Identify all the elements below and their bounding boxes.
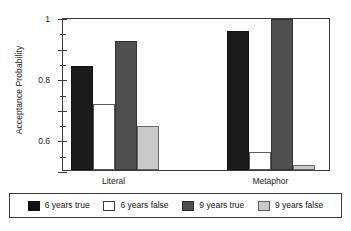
- bar-chart-figure: Acceptance Probability 00.20.40.60.81 Li…: [0, 0, 351, 231]
- legend-swatch-icon: [182, 201, 194, 211]
- y-tick-major: 0.8: [58, 50, 67, 51]
- y-tick-major: 1: [58, 19, 67, 20]
- bar-literal-6-years-false: [93, 104, 115, 170]
- y-tick-major: 0: [58, 172, 67, 173]
- legend-entry: 9 years true: [182, 201, 244, 211]
- legend-swatch-icon: [28, 201, 40, 211]
- plot-area: 00.20.40.60.81: [62, 18, 330, 171]
- legend-label: 6 years true: [45, 201, 90, 210]
- y-tick-label: 1: [45, 15, 50, 24]
- legend-label: 9 years true: [199, 201, 244, 210]
- y-tick-label: 0.6: [38, 137, 50, 146]
- y-axis-label: Acceptance Probability: [14, 20, 24, 160]
- legend-swatch-icon: [258, 201, 270, 211]
- legend-label: 6 years false: [120, 201, 168, 210]
- x-axis-label-metaphor: Metaphor: [252, 176, 288, 186]
- legend-label: 9 years false: [275, 201, 323, 210]
- legend-entry: 9 years false: [258, 201, 323, 211]
- chart-legend: 6 years true6 years false9 years true9 y…: [9, 193, 342, 218]
- y-tick-minor: [60, 96, 66, 97]
- bar-metaphor-6-years-false: [249, 152, 271, 170]
- legend-entry: 6 years false: [103, 201, 168, 211]
- bar-metaphor-6-years-true: [227, 31, 249, 170]
- bar-literal-6-years-true: [71, 66, 93, 170]
- y-tick-major: 0.4: [58, 111, 67, 112]
- y-tick-label: 0.8: [38, 76, 50, 85]
- chart-panel: Acceptance Probability 00.20.40.60.81 Li…: [0, 0, 351, 188]
- y-tick-minor: [60, 157, 66, 158]
- y-tick-minor: [60, 34, 66, 35]
- legend-entry: 6 years true: [28, 201, 90, 211]
- bar-metaphor-9-years-true: [271, 19, 293, 170]
- y-tick-minor: [60, 65, 66, 66]
- x-axis-label-literal: Literal: [102, 176, 125, 186]
- y-tick-major: 0.2: [58, 141, 67, 142]
- bar-literal-9-years-false: [137, 126, 159, 170]
- bar-literal-9-years-true: [115, 41, 137, 170]
- y-tick-major: 0.6: [58, 80, 67, 81]
- y-tick-minor: [60, 126, 66, 127]
- legend-swatch-icon: [103, 201, 115, 211]
- bar-metaphor-9-years-false: [293, 165, 315, 170]
